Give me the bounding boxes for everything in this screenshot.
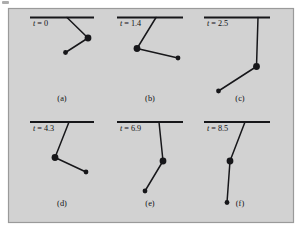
double-pendulum-figure: t=0 (a) t=1.4 (b) t=2.5 (c) [0,0,302,232]
panel-a-time-value: 0 [44,19,48,28]
panel-f-bob-upper [227,158,234,165]
figure-frame [9,9,294,223]
panel-c-time-value: 2.5 [218,19,228,28]
panel-e-time-eq: = [124,124,129,133]
panel-f-bob-lower [225,200,230,205]
panel-a-caption: (a) [57,94,67,103]
panel-b-bob-upper [134,45,141,52]
figure-root: t=0 (a) t=1.4 (b) t=2.5 (c) [0,0,302,232]
panel-a-bob-lower [63,50,68,55]
panel-b-caption: (b) [145,94,155,103]
panel-c-bob-upper [253,63,260,70]
panel-c-caption: (c) [235,94,245,103]
panel-a-bob-upper [85,35,92,42]
panel-f-caption: (f) [236,199,245,208]
panel-b-bob-lower [176,56,181,61]
panel-b-time-eq: = [124,19,129,28]
panel-e-caption: (e) [145,199,155,208]
panel-c-time-eq: = [211,19,216,28]
panel-d-time-eq: = [37,124,42,133]
panel-f-time-eq: = [211,124,216,133]
panel-d-bob-lower [84,170,89,175]
panel-d-caption: (d) [57,199,67,208]
panel-e-bob-lower [143,189,148,194]
panel-c-bob-lower [216,89,221,94]
panel-a-time-eq: = [37,19,42,28]
panel-b-time-value: 1.4 [131,19,141,28]
panel-e-bob-upper [160,158,167,165]
panel-e-time-value: 6.9 [131,124,141,133]
panel-f-time-value: 8.5 [218,124,228,133]
panel-a-time-label: t=0 [33,19,48,28]
scan-speck [2,1,9,4]
panel-d-time-value: 4.3 [44,124,54,133]
panel-d-bob-upper [52,154,59,161]
